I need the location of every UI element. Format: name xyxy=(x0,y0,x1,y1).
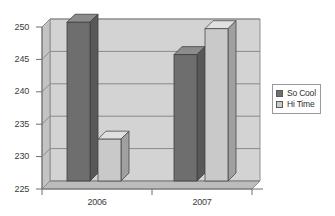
legend-item-hi-time[interactable]: Hi Time xyxy=(276,99,316,110)
bar-side-face xyxy=(90,14,98,181)
y-tick-label: 245 xyxy=(3,55,29,64)
legend-swatch-hi-time xyxy=(276,101,283,108)
x-tick-label-2006: 2006 xyxy=(72,198,122,207)
legend-item-so-cool[interactable]: So Cool xyxy=(276,88,316,99)
legend: So Cool Hi Time xyxy=(272,84,321,114)
plot-left-wall xyxy=(42,19,50,189)
bar-2007-so-cool[interactable] xyxy=(174,47,205,181)
bar-front-face xyxy=(98,139,121,181)
bar-front-face xyxy=(67,22,90,181)
y-tick-label: 230 xyxy=(3,152,29,161)
plot-floor xyxy=(42,181,260,189)
y-axis xyxy=(36,27,42,189)
y-tick-label: 225 xyxy=(3,185,29,194)
y-axis-labels: 250 245 240 235 230 225 xyxy=(3,0,29,216)
y-tick-label: 235 xyxy=(3,120,29,129)
legend-swatch-so-cool xyxy=(276,90,283,97)
plot-area: 250 245 240 235 230 225 2006 2007 So Coo… xyxy=(0,0,335,216)
bar-front-face xyxy=(174,55,197,181)
bar-2006-hi-time[interactable] xyxy=(98,131,129,181)
y-tick-label: 240 xyxy=(3,87,29,96)
y-tick-label: 250 xyxy=(3,23,29,32)
bar-2007-hi-time[interactable] xyxy=(205,21,236,181)
bar-chart: 250 245 240 235 230 225 2006 2007 So Coo… xyxy=(0,0,335,216)
bar-2006-so-cool[interactable] xyxy=(67,14,98,181)
bar-side-face xyxy=(197,47,205,181)
legend-label-so-cool: So Cool xyxy=(287,89,316,98)
legend-label-hi-time: Hi Time xyxy=(287,100,314,109)
bar-side-face xyxy=(228,21,236,181)
bar-front-face xyxy=(205,29,228,181)
x-axis xyxy=(42,189,263,195)
x-tick-label-2007: 2007 xyxy=(177,198,227,207)
bar-side-face xyxy=(121,131,129,181)
